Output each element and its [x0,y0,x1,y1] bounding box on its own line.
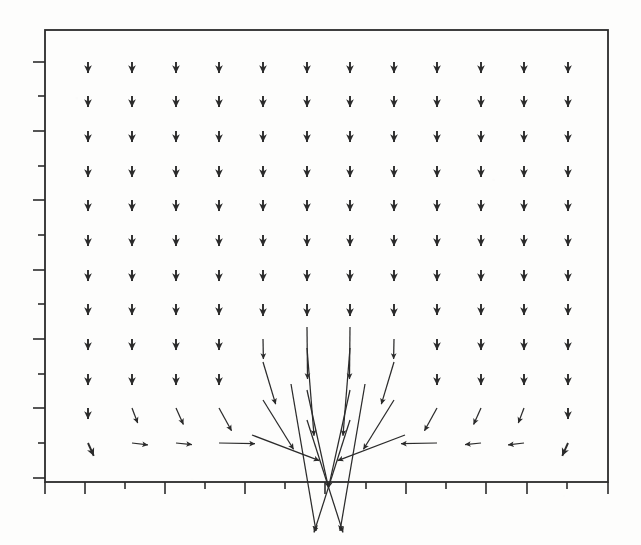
quiver-plot-canvas [0,0,641,545]
vector-field-figure [0,0,641,545]
vector-arrow [219,443,255,444]
vector-arrow [401,443,437,444]
